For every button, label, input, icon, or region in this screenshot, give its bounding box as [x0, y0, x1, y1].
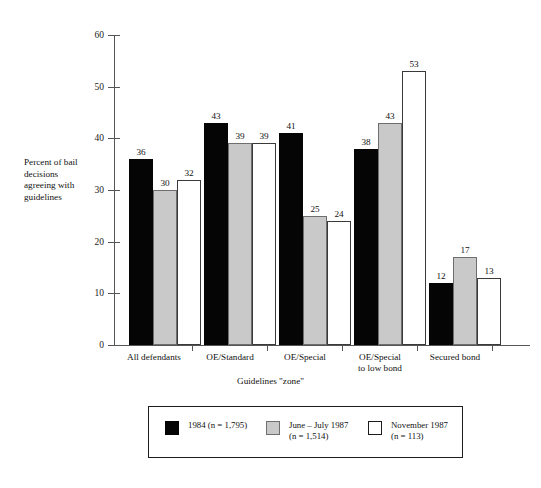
x-axis-label: Guidelines "zone"	[0, 376, 541, 386]
legend-swatch-1984-icon	[165, 421, 179, 435]
bar-g4-s1984	[429, 283, 453, 345]
bar-value-g4-s1987a: 17	[453, 245, 477, 255]
bar-value-g4-s1984: 12	[429, 271, 453, 281]
bar-chart-figure: Percent of bail decisions agreeing with …	[0, 0, 541, 488]
y-tick-label-50: 50	[88, 82, 104, 92]
bar-g3-s1984	[354, 149, 378, 345]
y-tick-label-0: 0	[88, 340, 104, 350]
bar-value-g0-s1984: 36	[129, 147, 153, 157]
bar-g1-s1984	[204, 123, 228, 345]
legend-entry-june-july-1987: June – July 1987 (n = 1,514)	[266, 420, 348, 443]
bar-g4-s1987b	[477, 278, 501, 345]
bar-g1-s1987a	[228, 143, 252, 345]
bar-g2-s1984	[279, 133, 303, 345]
legend-label-november-1987: November 1987 (n = 113)	[391, 420, 448, 443]
chart-legend: 1984 (n = 1,795) June – July 1987 (n = 1…	[148, 406, 463, 458]
legend-label-november-1987-line-2: (n = 113)	[391, 431, 448, 442]
bar-g0-s1984	[129, 159, 153, 345]
x-group-label-line-1: All defendants	[127, 352, 181, 362]
y-tick-0	[108, 345, 120, 346]
y-axis-label-line-1: Percent of bail	[24, 157, 108, 169]
bar-value-g0-s1987a: 30	[153, 178, 177, 188]
x-group-label-line-1: OE/Special	[284, 352, 326, 362]
bar-g1-s1987b	[252, 143, 276, 345]
cropped-caption-fragment	[0, 0, 541, 6]
bar-value-g4-s1987b: 13	[477, 266, 501, 276]
bar-value-g3-s1984: 38	[354, 137, 378, 147]
y-tick-label-40: 40	[88, 133, 104, 143]
legend-swatch-june-july-1987-icon	[266, 421, 280, 435]
bar-value-g3-s1987b: 53	[402, 59, 426, 69]
legend-label-june-july-1987-line-2: (n = 1,514)	[289, 431, 348, 442]
y-tick-label-60: 60	[88, 30, 104, 40]
y-axis-label: Percent of bail decisions agreeing with …	[24, 157, 108, 203]
y-tick-label-20: 20	[88, 237, 104, 247]
x-group-label-line-2: to low bond	[358, 363, 402, 373]
y-tick-label-10: 10	[88, 288, 104, 298]
legend-label-1984: 1984 (n = 1,795)	[188, 420, 247, 431]
bar-g2-s1987b	[327, 221, 351, 345]
bar-value-g2-s1987a: 25	[303, 204, 327, 214]
bar-g3-s1987b	[402, 71, 426, 345]
x-group-label-line-1: Secured bond	[430, 352, 480, 362]
x-group-label-line-1: OE/Standard	[206, 352, 253, 362]
legend-label-november-1987-line-1: November 1987	[391, 420, 448, 430]
legend-label-1984-line-1: 1984 (n = 1,795)	[188, 420, 247, 430]
x-group-label-secured-bond: Secured bond	[405, 352, 505, 363]
bar-g2-s1987a	[303, 216, 327, 345]
bar-g0-s1987b	[177, 180, 201, 345]
legend-entry-1984: 1984 (n = 1,795)	[165, 420, 247, 435]
bar-value-g0-s1987b: 32	[177, 168, 201, 178]
legend-swatch-november-1987-icon	[368, 421, 382, 435]
y-axis-label-line-2: decisions	[24, 169, 108, 181]
bar-value-g1-s1984: 43	[204, 111, 228, 121]
plot-area: 36 30 32 43 39 39 41 25 24 38 43 53 12 1…	[114, 35, 530, 345]
bar-g4-s1987a	[453, 257, 477, 345]
x-axis-line	[114, 345, 530, 346]
bar-value-g3-s1987a: 43	[378, 111, 402, 121]
legend-label-june-july-1987-line-1: June – July 1987	[289, 420, 348, 430]
bar-value-g2-s1984: 41	[279, 121, 303, 131]
bar-g3-s1987a	[378, 123, 402, 345]
y-tick-label-30: 30	[88, 185, 104, 195]
bar-value-g1-s1987b: 39	[252, 131, 276, 141]
x-group-label-line-1: OE/Special	[359, 352, 401, 362]
bar-value-g2-s1987b: 24	[327, 209, 351, 219]
legend-label-june-july-1987: June – July 1987 (n = 1,514)	[289, 420, 348, 443]
bar-g0-s1987a	[153, 190, 177, 345]
bar-value-g1-s1987a: 39	[228, 131, 252, 141]
legend-entry-november-1987: November 1987 (n = 113)	[368, 420, 448, 443]
